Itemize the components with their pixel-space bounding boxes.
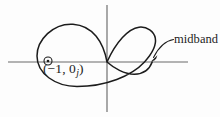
- midband-label: midband: [174, 32, 218, 47]
- midband-leader-line: [154, 40, 174, 58]
- locus-plot-svg: [0, 0, 220, 117]
- critical-point-label: (−1, 0j): [43, 61, 84, 78]
- critical-point-label-main: (−1, 0: [43, 61, 76, 76]
- critical-point-label-close-paren: ): [79, 61, 84, 76]
- figure-root: (−1, 0j) midband: [0, 0, 220, 117]
